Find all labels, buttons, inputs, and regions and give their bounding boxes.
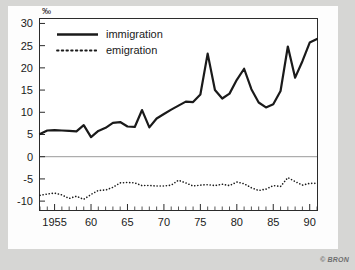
copyright-notice: © BRON (320, 256, 349, 263)
immigration-emigration-line-chart: ‰ 302520151050-5-10 195560657075808590 i… (0, 0, 355, 270)
plot-area-frame (40, 19, 318, 211)
y-tick-label: -10 (17, 195, 33, 207)
chart-figure-root: ‰ 302520151050-5-10 195560657075808590 i… (0, 0, 355, 270)
y-tick-label: 0 (27, 151, 33, 163)
y-axis-ticks: 302520151050-5-10 (17, 17, 45, 207)
y-tick-label: 20 (21, 62, 33, 74)
x-tick-label: 65 (121, 216, 133, 228)
y-axis-unit-label: ‰ (42, 6, 51, 16)
legend-label-immigration: immigration (106, 28, 163, 40)
legend-label-emigration: emigration (106, 44, 157, 56)
y-tick-label: 10 (21, 106, 33, 118)
y-tick-label: 5 (27, 128, 33, 140)
x-tick-label: 85 (267, 216, 279, 228)
x-tick-label: 90 (304, 216, 316, 228)
x-tick-label: 60 (85, 216, 97, 228)
y-tick-label: 15 (21, 84, 33, 96)
y-tick-label: 25 (21, 40, 33, 52)
x-tick-label: 1955 (42, 216, 66, 228)
y-tick-label: -5 (23, 173, 33, 185)
x-tick-label: 80 (231, 216, 243, 228)
x-tick-label: 75 (194, 216, 206, 228)
x-tick-label: 70 (158, 216, 170, 228)
y-tick-label: 30 (21, 17, 33, 29)
